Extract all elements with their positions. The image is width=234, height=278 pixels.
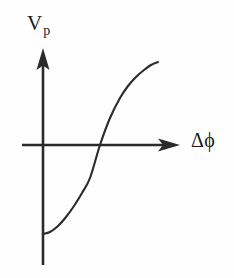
sigmoid-curve (43, 62, 158, 234)
x-axis-label: Δϕ (191, 130, 215, 150)
y-axis-label-subscript: p (43, 23, 50, 38)
y-axis-label: Vp (27, 13, 49, 34)
y-axis-label-main: V (27, 11, 42, 35)
figure-container: Vp Δϕ (0, 0, 234, 278)
